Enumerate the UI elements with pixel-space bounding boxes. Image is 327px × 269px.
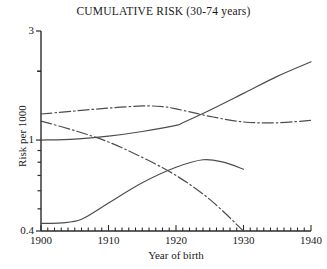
series-rising-solid (41, 62, 311, 140)
x-tick-label: 1930 (233, 234, 255, 246)
y-tick-label: 3 (29, 24, 35, 36)
x-tick-label: 1910 (98, 234, 120, 246)
series-low-solid (41, 160, 244, 224)
y-axis-label: Risk per 1000 (16, 81, 28, 191)
chart-figure: CUMULATIVE RISK (30-74 years) Risk per 1… (0, 0, 327, 269)
x-tick-label: 1940 (300, 234, 322, 246)
y-tick-label: 1 (29, 133, 35, 145)
x-tick-label: 1900 (30, 234, 52, 246)
x-tick-label: 1920 (165, 234, 187, 246)
series-peaked-dashdot (41, 106, 311, 123)
series-declining-dashdot (41, 121, 244, 231)
plot-area (0, 0, 327, 269)
x-axis-label: Year of birth (41, 249, 311, 261)
